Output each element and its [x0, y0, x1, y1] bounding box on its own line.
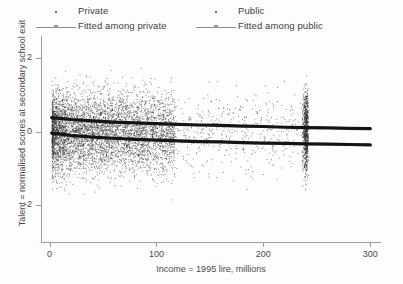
topcoded-income-cluster: [304, 84, 308, 190]
legend-label-public: Public: [238, 5, 264, 16]
legend-label-fitted-public: Fitted among public: [238, 20, 323, 31]
legend-line-marker-icon: [54, 25, 58, 28]
x-tick-label: 0: [30, 249, 70, 259]
chart-legend: Private Fitted among private Public Fitt…: [0, 0, 403, 30]
legend-label-private: Private: [78, 5, 108, 16]
x-tick-mark: [50, 242, 51, 247]
y-tick-label: -2: [0, 199, 32, 209]
scatter-canvas: [41, 36, 381, 242]
x-axis-label: Income = 1995 lire, millions: [41, 264, 381, 274]
y-tick-label: 0: [0, 126, 32, 136]
legend-label-fitted-private: Fitted among private: [78, 20, 167, 31]
x-tick-label: 300: [350, 249, 390, 259]
x-axis-line: [41, 242, 381, 243]
x-tick-mark: [156, 242, 157, 247]
legend-dot-icon: [55, 11, 57, 13]
plot-area: [41, 36, 381, 242]
x-tick-label: 100: [136, 249, 176, 259]
legend-line-marker-icon: [214, 25, 218, 28]
scatter-plot-figure: Private Fitted among private Public Fitt…: [0, 0, 403, 284]
legend-dot-icon: [215, 11, 217, 13]
scatter-points: [52, 68, 309, 200]
y-tick-label: 2: [0, 52, 32, 62]
x-tick-mark: [370, 242, 371, 247]
x-tick-label: 200: [243, 249, 283, 259]
x-tick-mark: [263, 242, 264, 247]
